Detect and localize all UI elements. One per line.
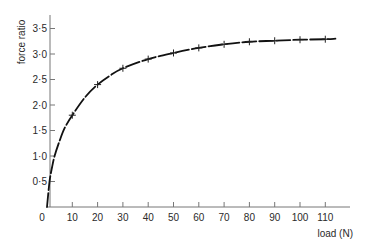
y-tick-label: 2·0 <box>33 100 48 111</box>
y-tick-label: 1·0 <box>33 151 48 162</box>
data-point-marker <box>246 38 253 45</box>
y-tick-label: 0·5 <box>33 176 48 187</box>
data-point-marker <box>322 36 329 43</box>
y-axis-title: force ratio <box>16 19 27 64</box>
x-tick-label: 50 <box>168 212 180 223</box>
x-tick-label: 80 <box>244 212 256 223</box>
x-tick-label: 40 <box>143 212 155 223</box>
x-axis: 0102030405060708090100110 load (N) <box>39 202 353 239</box>
data-point-marker <box>145 56 152 63</box>
x-tick-label: 110 <box>317 212 333 223</box>
data-point-marker <box>297 36 304 43</box>
fitted-curve <box>47 39 335 207</box>
force-ratio-chart: 0·51·01·52·02·53·03·5 force ratio 010203… <box>0 0 372 245</box>
x-tick-label: 30 <box>117 212 129 223</box>
data-point-marker <box>170 49 177 56</box>
y-tick-label: 3·0 <box>33 49 48 60</box>
x-tick-label: 60 <box>193 212 205 223</box>
x-axis-ticks: 0102030405060708090100110 <box>39 202 333 223</box>
data-point-marker <box>195 44 202 51</box>
plot-area <box>47 36 335 207</box>
x-tick-label: 20 <box>92 212 104 223</box>
data-point-marker <box>119 65 126 72</box>
x-tick-label: 90 <box>269 212 281 223</box>
x-axis-title: load (N) <box>317 228 353 239</box>
data-point-marker <box>271 37 278 44</box>
y-tick-label: 1·5 <box>33 125 48 136</box>
x-tick-label: 100 <box>292 212 309 223</box>
x-tick-label: 70 <box>219 212 231 223</box>
y-tick-label: 2·5 <box>33 74 48 85</box>
y-tick-label: 3·5 <box>33 23 48 34</box>
x-tick-label: 0 <box>39 212 45 223</box>
x-tick-label: 10 <box>67 212 79 223</box>
y-axis-ticks: 0·51·01·52·02·53·03·5 <box>33 23 55 187</box>
data-point-marker <box>221 41 228 48</box>
